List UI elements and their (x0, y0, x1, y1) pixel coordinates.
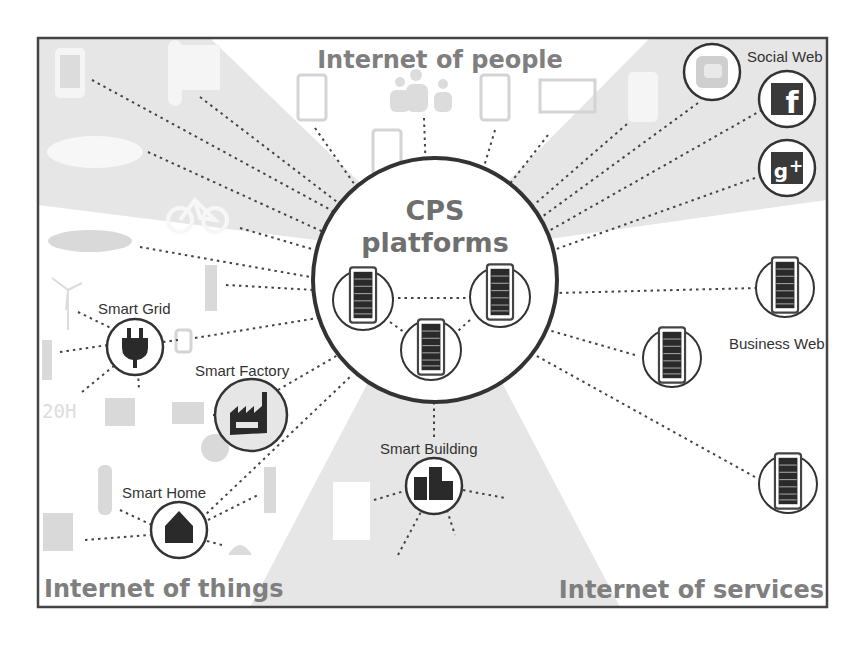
alarm-icon (228, 545, 252, 555)
battery-icon (176, 330, 191, 352)
google-plus-icon: g + (759, 140, 815, 196)
business-web-label: Business Web (729, 335, 825, 352)
wind-turbine-icon (52, 278, 82, 330)
svg-text:g: g (774, 159, 788, 183)
server-node (401, 319, 461, 380)
smart-grid-group: Smart Grid (98, 300, 171, 375)
thermometer-icon (168, 40, 182, 106)
social-web-label: Social Web (747, 48, 823, 65)
svg-text:+: + (789, 156, 803, 176)
people-icon (390, 69, 452, 112)
heater-icon (42, 340, 52, 380)
sensor-icon (264, 467, 276, 513)
electric-car-icon (47, 136, 143, 168)
cps-platforms-hub: CPS platforms (313, 158, 557, 402)
door-icon (333, 482, 370, 540)
washing-machine-icon (43, 513, 73, 551)
bulb-icon (98, 465, 112, 515)
smart-factory-label: Smart Factory (195, 362, 290, 379)
smart-grid-label: Smart Grid (98, 300, 171, 317)
cps-title-line2: platforms (361, 227, 509, 258)
business-web-group: Business Web (643, 257, 825, 513)
server-node (643, 327, 701, 387)
server-node (759, 453, 817, 513)
electric-car-icon (48, 230, 132, 252)
smart-home-label: Smart Home (122, 484, 206, 501)
smart-building-label: Smart Building (380, 440, 478, 457)
light-switch-icon (205, 265, 217, 311)
facebook-icon: f (759, 71, 815, 127)
first-aid-icon (182, 45, 220, 90)
tablet-icon (298, 75, 326, 120)
cps-platforms-diagram: 20H (0, 0, 864, 646)
solar-panel-icon (105, 398, 135, 426)
server-node (756, 257, 814, 317)
display-icon: 20H (42, 400, 76, 422)
tablet-icon (481, 75, 509, 120)
quadrant-title-services: Internet of services (559, 576, 824, 604)
cps-title-line1: CPS (405, 195, 464, 226)
phone-icon (628, 72, 658, 122)
twitter-icon (684, 44, 740, 100)
svg-text:f: f (785, 85, 799, 120)
radiator-icon (172, 402, 204, 424)
smart-home-group: Smart Home (122, 484, 207, 558)
quadrant-title-things: Internet of things (44, 575, 283, 603)
quadrant-title-people: Internet of people (317, 46, 563, 74)
